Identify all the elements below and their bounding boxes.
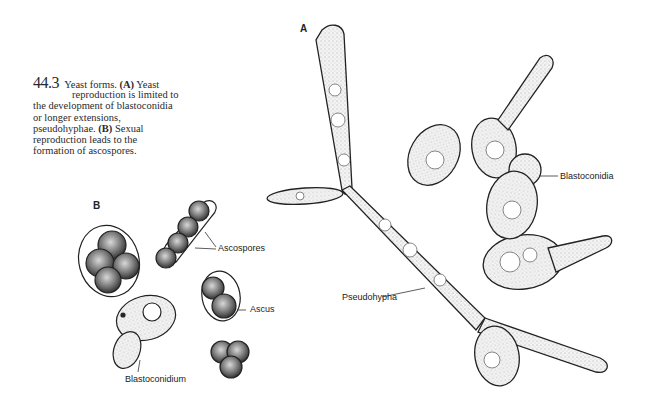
label-ascus: Ascus bbox=[250, 304, 275, 314]
panel-a-drawing bbox=[267, 25, 612, 389]
label-pseudohypha: Pseudohypha bbox=[342, 292, 397, 302]
panel-a-label: A bbox=[300, 23, 307, 34]
label-blastoconidia: Blastoconidia bbox=[560, 171, 614, 181]
panel-b-drawing bbox=[71, 201, 249, 378]
panel-b-label: B bbox=[93, 200, 100, 211]
label-ascospores: Ascospores bbox=[218, 243, 265, 253]
label-blastoconidium: Blastoconidium bbox=[125, 374, 186, 384]
